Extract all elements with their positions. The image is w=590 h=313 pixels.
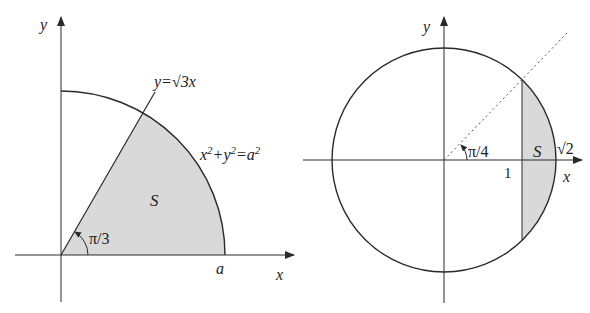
angle-label: π/4 xyxy=(468,143,489,160)
radius-label-a: a xyxy=(216,260,224,277)
shaded-sector-region xyxy=(61,113,225,255)
tick-label-one: 1 xyxy=(504,165,512,181)
circle-equation-label: x2+y2=a2 xyxy=(199,144,261,164)
tick-label-sqrt2: √2 xyxy=(557,140,574,157)
diagram-canvas: y x y=√3x x2+y2=a2 S π/3 a y x π/4 S 1 √… xyxy=(0,0,590,313)
right-figure: y x π/4 S 1 √2 xyxy=(303,17,582,303)
region-label-s: S xyxy=(150,191,159,210)
y-axis-label: y xyxy=(421,18,431,36)
angle-label: π/3 xyxy=(89,230,110,247)
y-axis-label: y xyxy=(38,16,48,34)
x-axis-label: x xyxy=(275,266,283,283)
angle-arc xyxy=(461,145,467,160)
x-axis-label: x xyxy=(562,168,570,185)
line-equation-label: y=√3x xyxy=(152,73,196,91)
left-figure: y x y=√3x x2+y2=a2 S π/3 a xyxy=(15,16,294,302)
region-label-s: S xyxy=(533,142,542,161)
